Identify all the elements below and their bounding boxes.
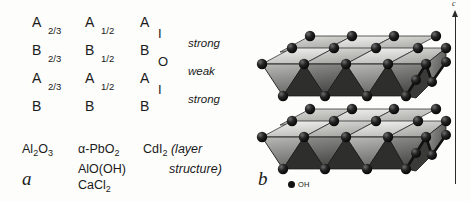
layer-letter: B (140, 42, 150, 58)
formula-column-alpha-pbo2: α-PbO2 AlO(OH) CaCl2 (78, 141, 126, 197)
bond-strength-label: weak (188, 65, 215, 77)
layer-fraction: 2/3 (48, 25, 61, 36)
c-axis: c (449, 4, 463, 184)
layer-fraction: 1/2 (101, 81, 114, 92)
c-axis-label: c (452, 0, 456, 8)
formula-line: α-PbO2 (78, 141, 126, 161)
layer-fraction: 1/2 (101, 25, 114, 36)
layer-letter: A (85, 70, 95, 86)
layer-letter: B (85, 42, 95, 58)
structure-note: (layer (171, 142, 202, 156)
layer-letter: A (85, 14, 95, 30)
layer-letter: A (32, 14, 42, 30)
oh-sphere-icon (288, 181, 295, 188)
interlayer-symbol: I (158, 26, 162, 41)
octahedral-sheet-lower (257, 104, 451, 174)
interlayer-symbol: O (158, 54, 168, 69)
layer-letter: B (140, 98, 150, 114)
legend-label: OH (298, 180, 310, 189)
formula-subscript: 2 (33, 148, 38, 158)
formula-subscript: 2 (106, 184, 111, 194)
formula-line: CaCl2 (78, 177, 126, 197)
bond-strength-label: strong (188, 93, 220, 105)
formula-main: α-PbO (78, 142, 114, 156)
legend: OH (288, 180, 310, 189)
structure-note: structure) (143, 161, 222, 177)
layer-letter: B (85, 98, 95, 114)
formula-main: CdI (143, 142, 162, 156)
octahedral-sheet-upper (257, 31, 451, 101)
layer-letter: A (140, 14, 150, 30)
layer-fraction: 2/3 (48, 81, 61, 92)
formula-subscript: 3 (48, 148, 53, 158)
panel-a-stacking-diagram: A 2/3 B 2/3 A 2/3 B A 1/2 B 1/2 (0, 0, 240, 201)
formula-main: CaCl (78, 178, 106, 192)
crystal-structure-figure: A 2/3 B 2/3 A 2/3 B A 1/2 B 1/2 (0, 0, 471, 201)
bond-strength-label: strong (188, 37, 220, 49)
formula-subscript: 2 (114, 148, 119, 158)
c-axis-line (455, 14, 456, 184)
formula-line: AlO(OH) (78, 161, 126, 177)
layer-letter: A (32, 70, 42, 86)
panel-b-crystal-structure (240, 0, 471, 201)
panel-label-b: b (258, 168, 268, 190)
octahedral-layer-illustration (240, 0, 471, 201)
formula-column-cdi2: CdI2 (layerstructure) (143, 141, 222, 177)
panel-label-a: a (22, 168, 32, 190)
formula-column-corundum: Al2O3 (22, 141, 53, 161)
formula-line: Al2O3 (22, 141, 53, 161)
layer-fraction: 2/3 (48, 53, 61, 64)
formula-line: CdI2 (layerstructure) (143, 141, 222, 177)
formula-subscript: 2 (162, 148, 167, 158)
interlayer-symbol: I (158, 82, 162, 97)
layer-fraction: 1/2 (101, 53, 114, 64)
layer-letter: B (32, 42, 42, 58)
layer-letter: B (32, 98, 42, 114)
layer-letter: A (140, 70, 150, 86)
